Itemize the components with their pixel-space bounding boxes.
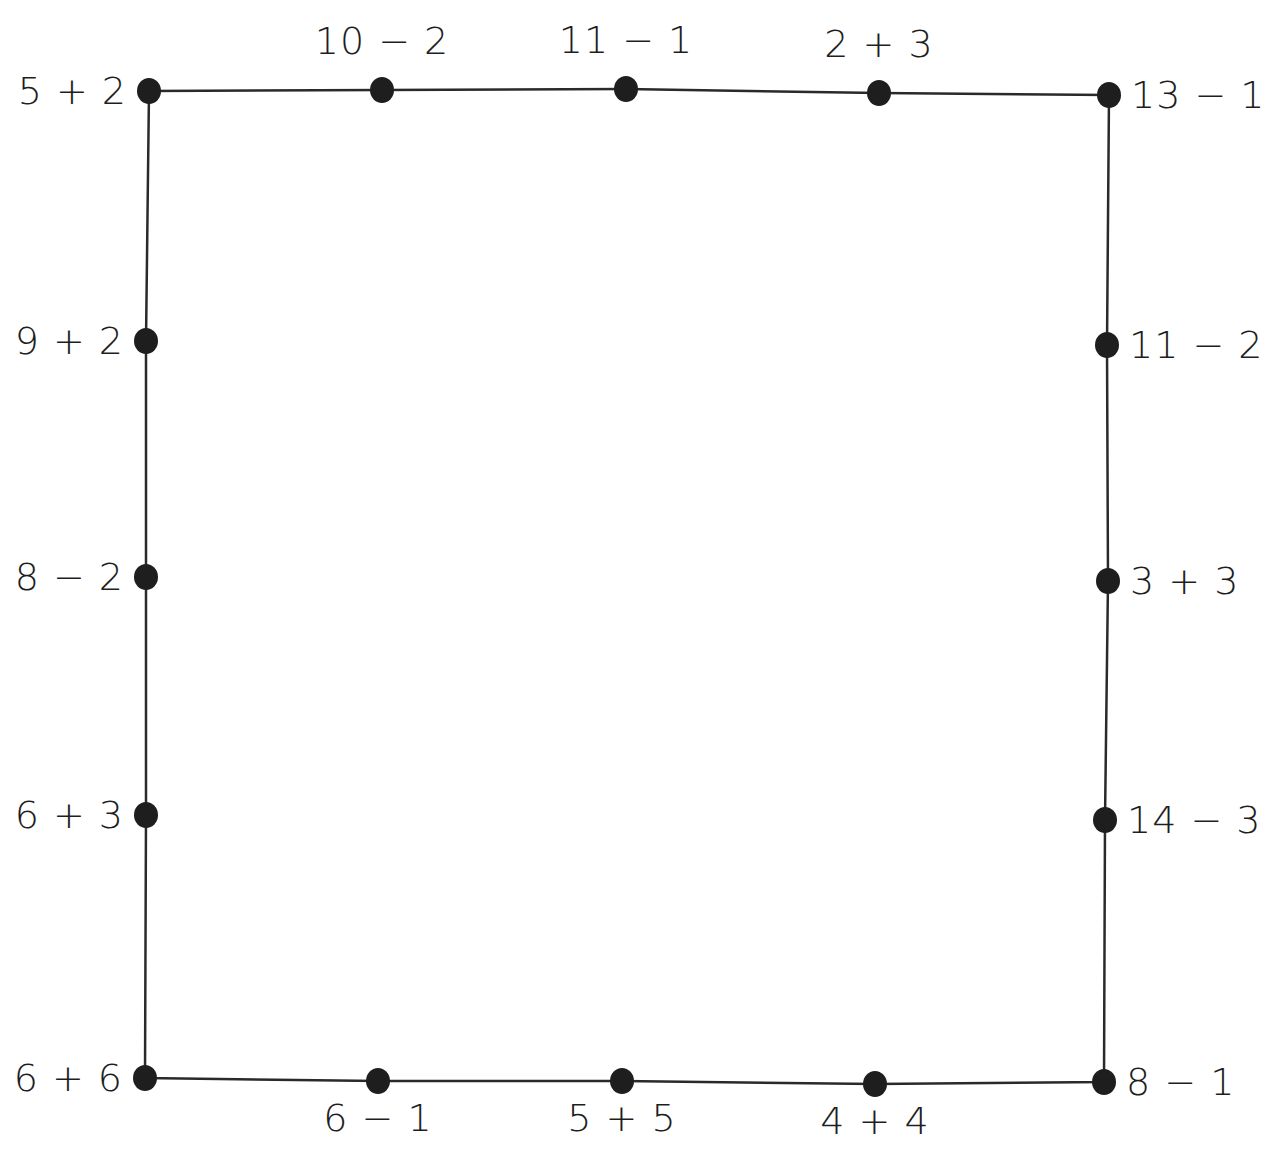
- dot-point[interactable]: [1092, 1069, 1116, 1095]
- dot-point[interactable]: [1093, 807, 1117, 833]
- dot-point[interactable]: [370, 77, 394, 103]
- dot-point[interactable]: [610, 1068, 634, 1094]
- dot-point[interactable]: [867, 80, 891, 106]
- dot-point[interactable]: [614, 76, 638, 102]
- dot-point[interactable]: [137, 78, 161, 104]
- dot-label: 5 + 5: [567, 1099, 676, 1137]
- dot-label: 13 − 1: [1131, 76, 1266, 114]
- dot-label: 11 − 1: [559, 21, 694, 59]
- dot-label: 4 + 4: [820, 1102, 929, 1140]
- dot-label: 6 − 1: [323, 1099, 432, 1137]
- dot-point[interactable]: [133, 1065, 157, 1091]
- dot-label: 14 − 3: [1127, 801, 1262, 839]
- dots-group: [133, 76, 1121, 1097]
- dot-label: 3 + 3: [1130, 562, 1239, 600]
- square-outline-path: [145, 89, 1109, 1084]
- dot-label: 10 − 2: [315, 22, 450, 60]
- dot-point[interactable]: [1095, 332, 1119, 358]
- dot-label: 8 − 2: [15, 558, 124, 596]
- dot-label: 9 + 2: [15, 322, 124, 360]
- dot-label: 6 + 6: [14, 1059, 123, 1097]
- dot-label: 6 + 3: [15, 796, 124, 834]
- dot-point[interactable]: [1096, 568, 1120, 594]
- dot-label: 11 − 2: [1129, 326, 1264, 364]
- dot-diagram: [0, 0, 1267, 1168]
- dot-label: 8 − 1: [1126, 1063, 1235, 1101]
- dot-point[interactable]: [134, 328, 158, 354]
- dot-label: 5 + 2: [18, 72, 127, 110]
- dot-point[interactable]: [863, 1071, 887, 1097]
- dot-point[interactable]: [134, 564, 158, 590]
- dot-point[interactable]: [134, 802, 158, 828]
- dot-label: 2 + 3: [824, 25, 933, 63]
- dot-point[interactable]: [1097, 82, 1121, 108]
- dot-point[interactable]: [366, 1068, 390, 1094]
